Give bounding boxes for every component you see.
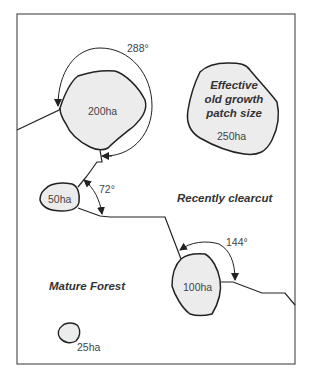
angle-label-144: 144°	[226, 236, 248, 248]
region-label-recently-clearcut: Recently clearcut	[177, 192, 272, 204]
forest-edge-line-4	[221, 282, 295, 305]
patch-label-50ha: 50ha	[48, 193, 71, 205]
patch-250ha-title-line1: Effective	[204, 79, 264, 91]
patch-label-100ha: 100ha	[183, 281, 212, 293]
forest-edge-line-3	[78, 208, 181, 259]
forest-edge-line-2	[78, 150, 102, 187]
arrow-tail-72	[84, 180, 90, 185]
patch-250ha-title-line3: patch size	[198, 107, 270, 119]
patch-label-200ha: 200ha	[88, 105, 117, 117]
angle-label-72: 72°	[99, 183, 115, 195]
angle-label-288: 288°	[127, 42, 149, 54]
patch-250ha-title-line2: old growth	[198, 93, 270, 105]
patch-label-250ha: 250ha	[217, 130, 246, 142]
diagram-canvas	[0, 0, 311, 378]
region-label-mature-forest: Mature Forest	[49, 280, 125, 292]
forest-edge-line	[17, 108, 60, 130]
arrow-tail-144	[180, 246, 186, 250]
patch-label-25ha: 25ha	[77, 341, 100, 353]
patch-25ha	[58, 323, 79, 343]
